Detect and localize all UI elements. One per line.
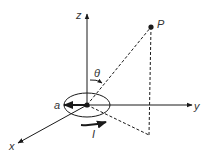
z-axis-label: z (75, 9, 82, 21)
y-axis-label: y (193, 100, 201, 112)
theta-label: θ (94, 67, 100, 79)
position-vector-dashed (87, 27, 151, 105)
x-axis (18, 105, 87, 143)
radius-label: a (54, 99, 60, 111)
origin-point (84, 102, 89, 107)
point-p-label: P (157, 18, 165, 30)
current-loop-diagram: z y x P θ a I (0, 0, 207, 161)
current-direction-arrow (81, 122, 106, 125)
x-axis-label: x (8, 140, 15, 152)
theta-arc (90, 80, 102, 83)
projection-horizontal-dashed (87, 105, 149, 135)
current-label: I (92, 128, 95, 140)
projection-vertical-dashed (149, 27, 151, 135)
point-p (148, 24, 153, 29)
